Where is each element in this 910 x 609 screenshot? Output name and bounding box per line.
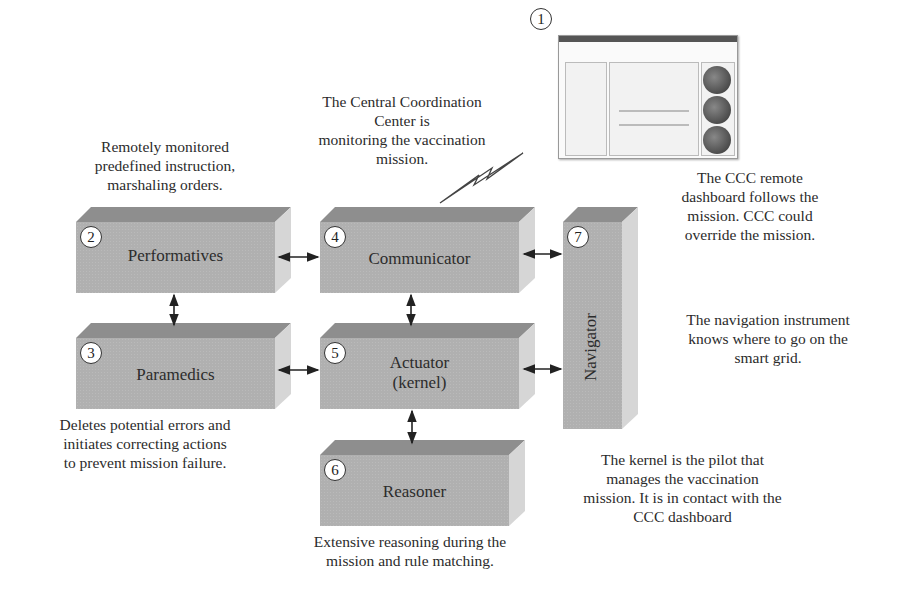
connectors (0, 0, 910, 609)
wireless-signal-icon (440, 153, 523, 203)
